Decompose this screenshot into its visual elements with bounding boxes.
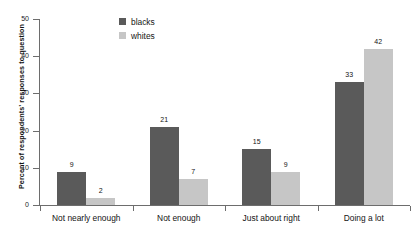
bar-blacks	[335, 82, 364, 205]
y-axis-tick-label: 40	[7, 52, 29, 59]
legend-swatch-icon	[119, 18, 126, 25]
y-axis-tick-label: 50	[7, 15, 29, 22]
legend-swatch-icon	[119, 32, 126, 39]
plot-area	[40, 19, 410, 205]
bar-value-label: 7	[178, 168, 208, 175]
bar-whites	[271, 172, 300, 205]
bar-value-label: 21	[149, 116, 179, 123]
legend-item-label: blacks	[131, 17, 155, 27]
bar-value-label: 9	[57, 161, 87, 168]
bar-chart: Percent of respondents' responses to que…	[0, 0, 415, 238]
bar-blacks	[242, 149, 271, 205]
y-axis-tick	[33, 93, 40, 94]
x-axis-separator-tick	[318, 206, 319, 211]
y-axis-title: Percent of respondents' responses to que…	[17, 7, 26, 207]
bar-value-label: 15	[242, 138, 272, 145]
y-axis-tick	[33, 56, 40, 57]
y-axis-tick	[33, 168, 40, 169]
y-axis-tick	[33, 205, 40, 206]
x-axis-separator-tick	[225, 206, 226, 211]
bar-blacks	[150, 127, 179, 205]
bar-whites	[179, 179, 208, 205]
y-axis-tick-label: 10	[7, 164, 29, 171]
bar-whites	[86, 198, 115, 205]
y-axis-tick	[33, 19, 40, 20]
legend-item-label: whites	[131, 31, 155, 41]
x-axis-category-label: Doing a lot	[304, 213, 415, 223]
bar-value-label: 33	[334, 71, 364, 78]
y-axis-tick-label: 20	[7, 127, 29, 134]
legend-item[interactable]: blacks	[119, 16, 155, 27]
legend: blackswhites	[119, 16, 155, 44]
x-axis-separator-tick	[40, 206, 41, 211]
bar-value-label: 9	[271, 161, 301, 168]
y-axis-tick-label: 30	[7, 89, 29, 96]
legend-item[interactable]: whites	[119, 30, 155, 41]
x-axis-separator-tick	[410, 206, 411, 211]
y-axis-tick-label: 0	[7, 201, 29, 208]
bar-blacks	[57, 172, 86, 205]
bar-value-label: 2	[86, 187, 116, 194]
y-axis-tick	[33, 131, 40, 132]
bar-value-label: 42	[363, 38, 393, 45]
bar-whites	[364, 49, 393, 205]
x-axis-separator-tick	[133, 206, 134, 211]
